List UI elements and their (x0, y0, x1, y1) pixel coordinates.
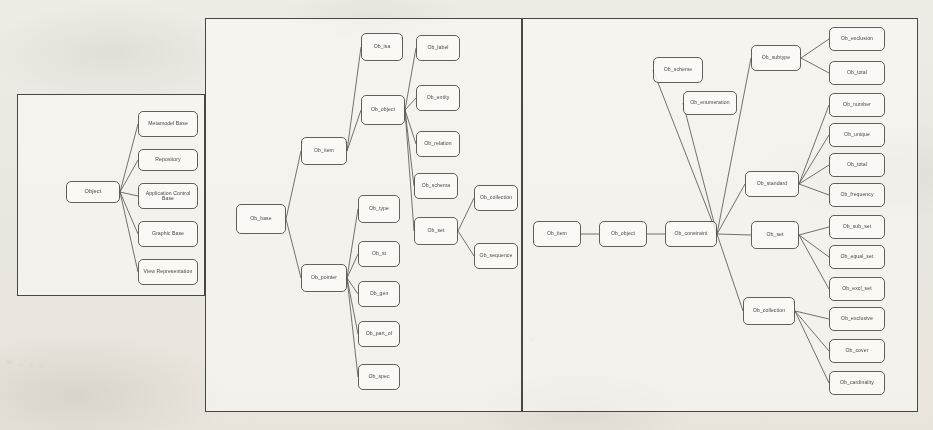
node-application-control-base[interactable]: Application Control Base (138, 183, 198, 209)
connector-Ob_pointer-to-Ob_gen (347, 278, 358, 294)
connector-Ob_item-to-Ob_isa (347, 47, 361, 151)
node-ob-exclusion[interactable]: Ob_exclusion (829, 27, 885, 51)
node-ob-set[interactable]: Ob_set (751, 221, 799, 249)
node-ob-item[interactable]: Ob_item (533, 221, 581, 247)
node-ob-frequency[interactable]: Ob_frequency (829, 183, 885, 207)
connector-Ob_pointer-to-Ob_spec (347, 278, 358, 377)
scan-smudge-0: ~ . . . (6, 356, 45, 368)
node-view-representation[interactable]: View Representation (138, 259, 198, 285)
panel-ob-base-tree: Ob_baseOb_itemOb_pointerOb_isaOb_objectO… (205, 18, 522, 412)
connector-Object-to-Graphic Base (120, 192, 138, 234)
node-ob-number[interactable]: Ob_number (829, 93, 885, 117)
node-ob-schema[interactable]: Ob_schema (414, 173, 458, 199)
node-ob-gen[interactable]: Ob_gen (358, 281, 400, 307)
connector-Ob_base-to-Ob_item (286, 151, 301, 219)
node-ob-st[interactable]: Ob_st (358, 241, 400, 267)
connector-Ob_item-to-Ob_object (347, 110, 361, 151)
connector-Ob_pointer-to-Ob_part_of (347, 278, 358, 334)
node-repository[interactable]: Repository (138, 149, 198, 171)
node-ob-excl-set[interactable]: Ob_excl_set (829, 277, 885, 301)
connector-Ob_base-to-Ob_pointer (286, 219, 301, 278)
node-ob-constraint[interactable]: Ob_constraint (665, 221, 717, 247)
panel-ob-constraint-tree: Ob_itemOb_objectOb_constraintOb_schemeOb… (522, 18, 918, 412)
node-metamodel-base[interactable]: Metamodel Base (138, 111, 198, 137)
node-ob-collection[interactable]: Ob_collection (474, 185, 518, 211)
node-ob-sub-set[interactable]: Ob_sub_set (829, 215, 885, 239)
connector-Ob_set-to-Ob_sequence (458, 231, 474, 256)
node-ob-pointer[interactable]: Ob_pointer (301, 264, 347, 292)
connector-Ob_object-to-Ob_label (405, 48, 416, 110)
node-ob-sequence[interactable]: Ob_sequence (474, 243, 518, 269)
node-ob-scheme[interactable]: Ob_scheme (653, 57, 703, 83)
connector-Ob_collection-to-Ob_cover (795, 311, 829, 351)
node-ob-object[interactable]: Ob_object (599, 221, 647, 247)
node-ob-part-of[interactable]: Ob_part_of (358, 321, 400, 347)
node-ob-relation[interactable]: Ob_relation (416, 131, 460, 157)
node-ob-spec[interactable]: Ob_spec (358, 364, 400, 390)
node-ob-entity[interactable]: Ob_entity (416, 85, 460, 111)
node-ob-subtype[interactable]: Ob_subtype (751, 45, 801, 71)
node-ob-exclusive[interactable]: Ob_exclusive (829, 307, 885, 331)
connector-Ob_collection-to-Ob_cardinality (795, 311, 829, 383)
panel-object-classification: ObjectMetamodel BaseRepositoryApplicatio… (17, 94, 205, 296)
connector-Ob_object-to-Ob_schema (405, 110, 414, 186)
connector-Ob_constraint-to-Ob_set (717, 234, 751, 235)
connector-Ob_object-to-Ob_relation (405, 110, 416, 144)
connector-Ob_collection-to-Ob_exclusive (795, 311, 829, 319)
node-ob-object[interactable]: Ob_object (361, 95, 405, 125)
connector-Ob_constraint-to-Ob_standard (717, 184, 745, 234)
node-ob-cover[interactable]: Ob_cover (829, 339, 885, 363)
connector-Object-to-Metamodel Base (120, 124, 138, 192)
connector-Ob_pointer-to-Ob_st (347, 254, 358, 278)
connector-Ob_constraint-to-Ob_subtype (717, 58, 751, 234)
node-ob-enumeration[interactable]: Ob_enumeration (683, 91, 737, 115)
node-ob-base[interactable]: Ob_base (236, 204, 286, 234)
connector-Ob_set-to-Ob_sub_set (799, 227, 829, 235)
node-ob-set[interactable]: Ob_set (414, 217, 458, 245)
node-ob-type[interactable]: Ob_type (358, 195, 400, 223)
connector-Object-to-Application Control Base (120, 192, 138, 196)
connector-Ob_standard-to-Ob_unique (799, 135, 829, 184)
connector-Ob_standard-to-Ob_frequency (799, 184, 829, 195)
node-ob-cardinality[interactable]: Ob_cardinality (829, 371, 885, 395)
connector-Ob_pointer-to-Ob_type (347, 209, 358, 278)
connector-Ob_set-to-Ob_excl_set (799, 235, 829, 289)
connector-Object-to-Repository (120, 160, 138, 192)
scan-smudge-1: . . (520, 330, 535, 342)
node-object[interactable]: Object (66, 181, 120, 203)
node-ob-total[interactable]: Ob_total (829, 61, 885, 85)
connector-Ob_object-to-Ob_set (405, 110, 414, 231)
node-graphic-base[interactable]: Graphic Base (138, 221, 198, 247)
connector-Ob_standard-to-Ob_number (799, 105, 829, 184)
node-ob-isa[interactable]: Ob_isa (361, 33, 403, 61)
node-ob-total[interactable]: Ob_total (829, 153, 885, 177)
node-ob-label[interactable]: Ob_label (416, 35, 460, 61)
connector-Object-to-View Representation (120, 192, 138, 272)
node-ob-equal-set[interactable]: Ob_equal_set (829, 245, 885, 269)
connector-Ob_object-to-Ob_entity (405, 98, 416, 110)
node-ob-unique[interactable]: Ob_unique (829, 123, 885, 147)
connector-Ob_set-to-Ob_collection (458, 198, 474, 231)
connector-Ob_constraint-to-Ob_enumeration (683, 103, 717, 234)
node-ob-item[interactable]: Ob_item (301, 137, 347, 165)
connector-Ob_standard-to-Ob_total (799, 165, 829, 184)
connector-Ob_subtype-to-Ob_exclusion (801, 39, 829, 58)
node-ob-collection[interactable]: Ob_collection (743, 297, 795, 325)
connector-Ob_constraint-to-Ob_collection (717, 234, 743, 311)
connector-Ob_subtype-to-Ob_total (801, 58, 829, 73)
node-ob-standard[interactable]: Ob_standard (745, 171, 799, 197)
connector-Ob_set-to-Ob_equal_set (799, 235, 829, 257)
